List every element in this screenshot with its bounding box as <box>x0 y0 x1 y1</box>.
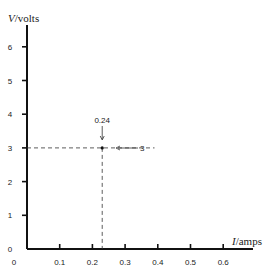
y-tick-label: 6 <box>8 43 13 52</box>
y-tick-label: 3 <box>8 144 13 153</box>
y-tick-label: 4 <box>8 110 13 119</box>
reading-guides <box>27 126 155 249</box>
y-axis-label: V/volts <box>8 12 39 24</box>
y-tick-label: 1 <box>8 211 13 220</box>
x-axis-label: I/amps <box>231 235 262 247</box>
x-tick-label: 0.6 <box>218 258 230 267</box>
data-point <box>101 146 104 149</box>
x-tick-label: 0.5 <box>185 258 197 267</box>
x-tick-label: 0.1 <box>54 258 66 267</box>
x-tick-label: 0.3 <box>120 258 132 267</box>
y-tick-label: 2 <box>8 178 13 187</box>
voltage-current-chart: 00.10.20.30.40.50.6 0123456 V/volts I/am… <box>0 0 279 273</box>
y-reading-annotation: 3 <box>140 144 145 153</box>
x-reading-annotation: 0.24 <box>94 116 110 125</box>
x-axis-ticks: 00.10.20.30.40.50.6 <box>12 244 230 267</box>
y-axis-ticks: 0123456 <box>8 43 27 254</box>
y-tick-label: 5 <box>8 77 13 86</box>
axes <box>27 25 253 249</box>
x-tick-label: 0.4 <box>152 258 164 267</box>
y-tick-label: 0 <box>8 245 13 254</box>
x-tick-label: 0.2 <box>87 258 99 267</box>
x-tick-label: 0 <box>12 258 17 267</box>
